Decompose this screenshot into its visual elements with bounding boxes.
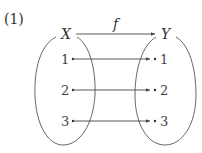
codomain-set-label: Y xyxy=(161,26,172,42)
codomain-point-1 xyxy=(154,58,156,60)
domain-element-3: 3 xyxy=(61,114,69,129)
function-label: f xyxy=(112,16,121,32)
codomain-point-3 xyxy=(154,120,156,122)
figure-label: (1) xyxy=(4,11,24,27)
domain-element-2: 2 xyxy=(61,83,69,98)
codomain-element-1: 1 xyxy=(160,52,168,67)
codomain-element-3: 3 xyxy=(160,114,168,129)
mapping-diagram: (1) X Y f 1 1 2 2 3 3 xyxy=(0,0,202,153)
domain-element-1: 1 xyxy=(61,52,69,67)
domain-set-label: X xyxy=(60,26,72,42)
codomain-element-2: 2 xyxy=(160,83,168,98)
codomain-point-2 xyxy=(154,89,156,91)
